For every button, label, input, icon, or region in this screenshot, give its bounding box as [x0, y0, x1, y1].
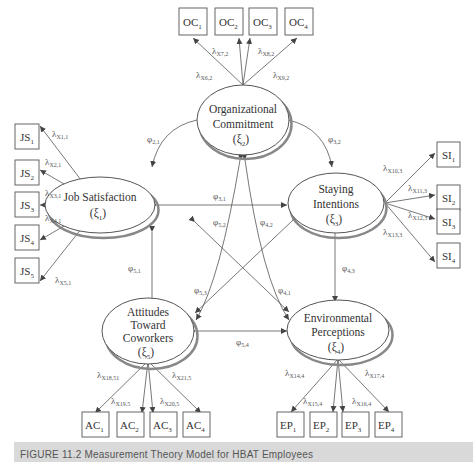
svg-text:Intentions: Intentions [313, 198, 360, 210]
indicator-ep-4: EP4 [375, 412, 402, 437]
indicator-si-2: SI2 [437, 185, 460, 210]
svg-text:φ5,3: φ5,3 [194, 285, 207, 296]
indicator-ac-2: AC2 [117, 412, 144, 437]
indicator-boxes-ep: EP1 EP2 EP3 EP4 [277, 412, 402, 437]
svg-text:λX8,2: λX8,2 [258, 46, 274, 57]
indicator-si-4: SI4 [437, 243, 460, 268]
svg-text:λX5,1: λX5,1 [55, 275, 71, 286]
svg-text:λX10,3: λX10,3 [383, 163, 402, 174]
svg-text:λX11,3: λX11,3 [408, 183, 427, 194]
indicator-boxes-oc: OC1 OC2 OC3 OC4 [179, 8, 313, 35]
svg-text:λX16,4: λX16,4 [352, 396, 371, 407]
indicator-boxes-ac: AC1 AC2 AC3 AC4 [82, 412, 210, 437]
svg-text:Perceptions: Perceptions [311, 326, 365, 339]
svg-text:φ2,1: φ2,1 [147, 134, 160, 145]
svg-text:Commitment: Commitment [213, 118, 275, 130]
svg-text:φ3,1: φ3,1 [213, 191, 226, 202]
svg-text:λX19,5: λX19,5 [111, 396, 130, 407]
indicator-oc-1: OC1 [179, 8, 207, 35]
svg-text:λX20,5: λX20,5 [160, 396, 179, 407]
svg-text:λX9,2: λX9,2 [273, 70, 289, 81]
construct-attitudes-toward-coworkers: Attitudes Toward Coworkers (ξ5) [102, 298, 198, 369]
figure-caption: FIGURE 11.2 Measurement Theory Model for… [20, 449, 313, 460]
construct-job-satisfaction: Job Satisfaction (ξ1) [45, 177, 159, 238]
indicator-oc-3: OC3 [249, 8, 277, 35]
indicator-boxes-js: JS1 JS2 JS3 JS4 JS5 [15, 124, 39, 283]
construct-environmental-perceptions: Environmental Perceptions (ξ4) [287, 300, 393, 365]
indicator-ep-2: EP2 [310, 412, 337, 437]
indicator-js-4: JS4 [15, 225, 39, 250]
svg-text:λX7,2: λX7,2 [212, 46, 228, 57]
svg-text:Organizational: Organizational [209, 103, 277, 116]
svg-text:φ4,1: φ4,1 [278, 285, 291, 296]
construct-staying-intentions: Staying Intentions (ξ3) [288, 173, 387, 238]
svg-text:λX1,1: λX1,1 [52, 129, 68, 140]
svg-text:λX14,4: λX14,4 [285, 368, 304, 379]
svg-text:φ5,4: φ5,4 [236, 337, 249, 348]
svg-text:λX6,2: λX6,2 [196, 70, 212, 81]
svg-text:Staying: Staying [318, 183, 353, 196]
indicator-ep-3: EP3 [342, 412, 369, 437]
indicator-js-5: JS5 [15, 258, 39, 283]
loading-labels-ep: λX14,4 λX15,4 λX16,4 λX17,4 [285, 368, 384, 407]
indicator-ac-1: AC1 [82, 412, 109, 437]
svg-text:λX18,51: λX18,51 [97, 370, 119, 381]
indicator-oc-4: OC4 [285, 8, 313, 35]
indicator-ep-1: EP1 [277, 412, 304, 437]
indicator-si-3: SI3 [437, 209, 460, 234]
svg-text:Environmental: Environmental [304, 312, 372, 324]
svg-text:Job Satisfaction: Job Satisfaction [63, 191, 136, 203]
svg-text:λX21,5: λX21,5 [172, 370, 191, 381]
construct-organizational-commitment: Organizational Commitment (ξ2) [197, 85, 292, 159]
svg-text:φ5,2: φ5,2 [213, 217, 226, 228]
svg-text:φ4,3: φ4,3 [342, 263, 355, 274]
indicator-si-1: SI1 [437, 142, 460, 167]
svg-text:λX13,3: λX13,3 [383, 227, 402, 238]
indicator-js-2: JS2 [15, 160, 39, 185]
indicator-js-3: JS3 [15, 192, 39, 217]
svg-text:Attitudes: Attitudes [127, 306, 170, 318]
loading-labels-ac: λX18,51 λX19,5 λX20,5 λX21,5 [97, 370, 191, 407]
figure-caption-bar: FIGURE 11.2 Measurement Theory Model for… [14, 442, 473, 462]
svg-text:φ3,2: φ3,2 [328, 134, 341, 145]
indicator-ac-3: AC3 [150, 412, 177, 437]
svg-text:Toward: Toward [131, 319, 166, 331]
svg-text:φ5,1: φ5,1 [128, 263, 141, 274]
indicator-oc-2: OC2 [215, 8, 243, 35]
svg-text:λX17,4: λX17,4 [365, 368, 384, 379]
indicator-boxes-si: SI1 SI2 SI3 SI4 [437, 142, 460, 268]
indicator-ac-4: AC4 [183, 412, 210, 437]
indicator-js-1: JS1 [15, 124, 39, 149]
svg-text:λX15,4: λX15,4 [303, 396, 322, 407]
svg-text:φ4,2: φ4,2 [260, 217, 273, 228]
svg-text:λX12,3: λX12,3 [408, 210, 427, 221]
svg-text:Coworkers: Coworkers [123, 332, 174, 344]
svg-text:λX2,1: λX2,1 [45, 157, 61, 168]
